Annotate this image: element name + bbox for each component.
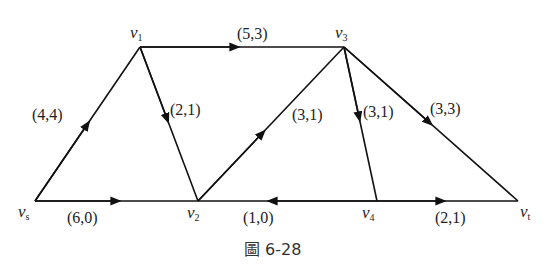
arrow-vs-v1 [35,125,87,201]
edge-label-v2-v3: (3,1) [292,107,323,123]
node-vs: vs [18,203,29,222]
node-v1: v1 [130,24,143,43]
edge-label-vs-v1: (4,4) [32,107,63,123]
node-v4: v4 [362,204,375,223]
edge-label-vs-v2: (6,0) [67,210,98,226]
figure-caption: 圖 6-28 [244,236,301,260]
edge-label-v1-v2: (2,1) [170,102,201,118]
node-vt: vt [520,203,530,222]
node-v2: v2 [187,204,200,223]
edge-label-v4-v2: (1,0) [243,210,274,226]
node-v3: v3 [335,24,348,43]
arrow-v2-v3 [198,134,262,202]
edge-label-v3-vt: (3,3) [430,101,461,117]
edge-label-v1-v3: (5,3) [237,26,268,42]
arrow-v1-v2 [140,47,167,119]
edge-label-v4-vt: (2,1) [435,210,466,226]
edge-label-v3-v4: (3,1) [363,104,394,120]
